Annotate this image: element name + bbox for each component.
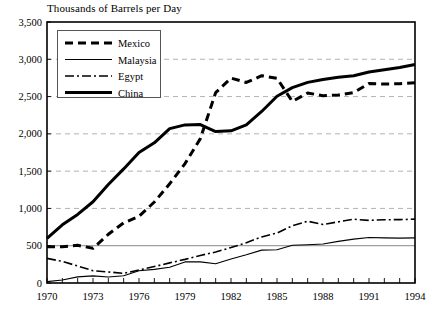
x-axis-tick-label: 1985 xyxy=(267,291,288,302)
x-axis-tick-label: 1970 xyxy=(37,291,58,302)
chart-container: Thousands of Barrels per Day 05001,0001,… xyxy=(0,0,431,310)
x-axis-tick-label: 1991 xyxy=(359,291,380,302)
x-axis-tick-label: 1976 xyxy=(129,291,150,302)
legend-label-mexico: Mexico xyxy=(118,38,150,49)
x-axis-tick-labels: 197019731976197919821985198819911994 xyxy=(37,291,427,302)
y-axis-tick-label: 0 xyxy=(37,278,42,289)
line-chart-plot: 05001,0001,5002,0002,5003,0003,500 19701… xyxy=(0,0,431,310)
y-axis-tick-label: 1,500 xyxy=(18,166,42,177)
x-axis-tick-label: 1994 xyxy=(405,291,427,302)
y-axis-tick-label: 2,500 xyxy=(18,91,42,102)
y-axis-tick-label: 1,000 xyxy=(18,203,42,214)
x-axis-tick-label: 1982 xyxy=(221,291,242,302)
y-axis-tick-labels: 05001,0001,5002,0002,5003,0003,500 xyxy=(18,17,51,289)
y-axis-tick-label: 2,000 xyxy=(18,128,42,139)
y-axis-tick-label: 3,500 xyxy=(18,17,42,28)
x-axis-tick-label: 1979 xyxy=(175,291,196,302)
y-axis-tick-label: 3,000 xyxy=(18,54,42,65)
chart-legend: MexicoMalaysiaEgyptChina xyxy=(58,31,161,99)
legend-label-malaysia: Malaysia xyxy=(118,55,157,66)
legend-label-egypt: Egypt xyxy=(118,71,143,82)
y-axis-tick-label: 500 xyxy=(26,240,42,251)
x-axis-tick-label: 1988 xyxy=(313,291,334,302)
legend-label-china: China xyxy=(118,88,143,99)
x-axis-tick-label: 1973 xyxy=(83,291,104,302)
